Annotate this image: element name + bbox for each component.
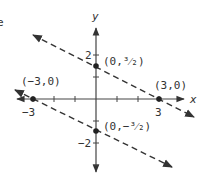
y-axis-label: y <box>91 10 99 23</box>
edge-fragment-text: e <box>0 16 4 29</box>
point-upper-y-intercept <box>93 63 99 69</box>
tick-label-2: 2 <box>85 49 92 62</box>
point-label-x-neg: (−3,0) <box>21 75 61 88</box>
x-axis-label: x <box>189 93 197 106</box>
tick-label-neg3: −3 <box>22 106 35 119</box>
point-x-intercept-neg <box>30 96 36 102</box>
coordinate-diagram: e y x 2 −2 3 −3 (0,³⁄₂) (3,0) (−3,0) (0,… <box>0 0 204 184</box>
point-label-x-pos: (3,0) <box>154 79 187 92</box>
tick-label-3: 3 <box>155 106 162 119</box>
point-label-upper-y: (0,³⁄₂) <box>103 55 145 68</box>
tick-label-neg2: −2 <box>78 137 91 150</box>
point-label-lower-y: (0,−³⁄₂) <box>103 120 151 133</box>
point-lower-y-intercept <box>93 128 99 134</box>
point-x-intercept-pos <box>156 96 162 102</box>
